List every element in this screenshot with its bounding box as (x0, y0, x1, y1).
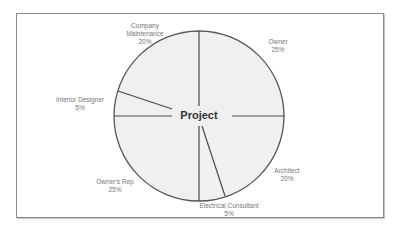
label-interior-designer: Interior Designer 5% (56, 96, 104, 112)
label-percent: 5% (199, 210, 258, 218)
label-percent: 25% (96, 186, 133, 194)
label-percent: 25% (268, 46, 287, 54)
pie-center-label: Project (178, 109, 219, 121)
label-name: Company (126, 22, 163, 30)
label-name: Maintenance (126, 30, 163, 38)
label-electrical-consultant: Electrical Consultant 5% (199, 202, 258, 218)
label-architect: Architect 20% (274, 167, 299, 183)
label-name: Architect (274, 167, 299, 175)
label-name: Owner (268, 38, 287, 46)
label-name: Owner's Rep (96, 178, 133, 186)
label-owner: Owner 25% (268, 38, 287, 54)
label-percent: 5% (56, 104, 104, 112)
label-name: Electrical Consultant (199, 202, 258, 210)
label-owners-rep: Owner's Rep 25% (96, 178, 133, 194)
label-name: Interior Designer (56, 96, 104, 104)
label-percent: 20% (126, 38, 163, 46)
label-percent: 20% (274, 175, 299, 183)
label-company-maintenance: Company Maintenance 20% (126, 22, 163, 46)
